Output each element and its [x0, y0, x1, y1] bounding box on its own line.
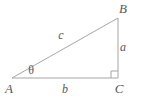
- vertex-label-a: A: [4, 81, 13, 96]
- right-triangle-figure: A B C a b c θ: [0, 0, 142, 97]
- right-angle-marker-icon: [111, 71, 118, 78]
- vertex-label-b: B: [119, 1, 127, 16]
- vertex-label-c: C: [115, 81, 124, 96]
- side-label-b: b: [62, 82, 68, 96]
- angle-label-theta: θ: [28, 63, 34, 77]
- side-label-a: a: [120, 40, 126, 54]
- triangle-canvas: A B C a b c θ: [0, 0, 142, 97]
- side-label-c: c: [58, 28, 64, 42]
